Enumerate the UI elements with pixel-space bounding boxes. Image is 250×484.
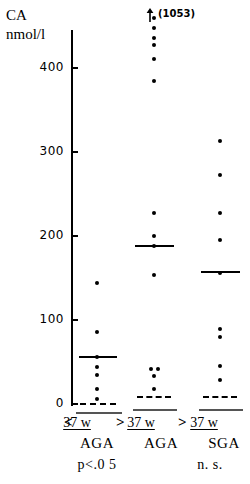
y-tick-label-400: 400 — [18, 61, 64, 73]
y-tick-label-300: 300 — [18, 145, 64, 157]
group-week-label-3: 37 w — [161, 415, 247, 431]
y-tick-label-100: 100 — [18, 313, 64, 325]
scatter-plot: CA nmol/l 400 300 200 100 0 (1053) — [0, 0, 250, 484]
data-point — [218, 173, 222, 177]
data-point — [152, 57, 156, 61]
y-tick-label-0: 0 — [18, 397, 64, 409]
significance-label-2: n. s. — [155, 457, 250, 473]
data-point — [218, 335, 222, 339]
group-aga-preterm — [62, 0, 132, 484]
detection-limit-line — [203, 396, 237, 398]
data-point — [95, 281, 99, 285]
data-point — [152, 43, 156, 47]
data-point — [152, 374, 156, 378]
mean-line — [201, 271, 240, 273]
data-point — [149, 367, 153, 371]
significance-label-1: p<.0 5 — [42, 457, 152, 473]
data-point — [95, 387, 99, 391]
data-point — [218, 378, 222, 382]
data-point — [152, 211, 156, 215]
group-aga-term — [130, 0, 200, 484]
data-point — [152, 36, 156, 40]
data-point — [95, 397, 99, 401]
data-point — [218, 139, 222, 143]
data-point — [152, 26, 156, 30]
data-point — [156, 367, 160, 371]
data-point — [95, 365, 99, 369]
detection-limit-line — [80, 403, 116, 405]
y-tick-label-200: 200 — [18, 229, 64, 241]
data-point — [95, 330, 99, 334]
group-baseline — [133, 409, 177, 411]
data-point — [152, 273, 156, 277]
mean-line — [79, 356, 117, 358]
data-point — [218, 238, 222, 242]
group-sga-term — [192, 0, 250, 484]
data-point — [152, 234, 156, 238]
data-point — [152, 79, 156, 83]
y-axis-title-line1: CA — [6, 6, 70, 25]
detection-limit-line — [137, 396, 171, 398]
data-point — [152, 16, 156, 20]
group-baseline — [199, 409, 243, 411]
mean-line — [135, 245, 174, 247]
data-point — [152, 387, 156, 391]
data-point — [95, 373, 99, 377]
data-point — [218, 364, 222, 368]
y-axis-title-line2: nmol/l — [6, 25, 70, 44]
y-axis-title: CA nmol/l — [6, 6, 70, 44]
data-point — [218, 211, 222, 215]
data-point — [218, 327, 222, 331]
group-name-3: SGA — [181, 435, 250, 452]
